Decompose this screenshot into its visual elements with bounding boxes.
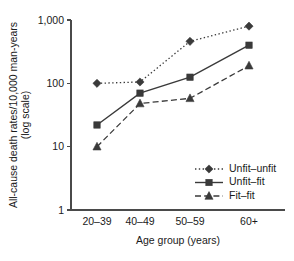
y-axis-ticks: 1101001,000: [38, 14, 71, 216]
x-tick-label: 20–39: [82, 215, 111, 227]
y-tick-label: 1,000: [38, 14, 64, 26]
x-axis-title: Age group (years): [136, 234, 220, 246]
y-axis-title-line2: (log scale): [19, 91, 31, 139]
marker-square: [246, 42, 252, 48]
y-axis-title-line1: All-cause death rates/10,000 man-years: [7, 22, 19, 208]
marker-diamond: [245, 22, 253, 30]
marker-diamond: [93, 79, 101, 87]
marker-triangle: [245, 61, 253, 69]
series-line: [97, 26, 249, 83]
legend-item-1: Unfit–unfit: [195, 162, 276, 174]
series-line: [97, 66, 249, 147]
series-3: [93, 61, 253, 150]
marker-triangle: [186, 94, 194, 102]
legend-label: Fit–fit: [229, 189, 255, 201]
legend-item-2: Unfit–fit: [195, 175, 265, 187]
chart-figure: 1101001,00020–3940–4950–5960+Age group (…: [0, 0, 294, 261]
x-tick-label: 40–49: [125, 215, 154, 227]
x-axis-ticks: 20–3940–4950–5960+: [82, 215, 258, 227]
y-tick-label: 10: [52, 140, 64, 152]
legend: Unfit–unfitUnfit–fitFit–fit: [195, 162, 276, 201]
marker-square: [94, 122, 100, 128]
series-line: [97, 45, 249, 125]
axis-titles: Age group (years)All-cause death rates/1…: [7, 22, 221, 246]
legend-label: Unfit–fit: [229, 175, 265, 187]
marker-square: [187, 74, 193, 80]
x-tick-label: 60+: [240, 215, 258, 227]
marker-square: [137, 90, 143, 96]
series-1: [93, 22, 253, 87]
marker-square: [206, 179, 212, 185]
marker-diamond: [205, 165, 213, 173]
x-tick-label: 50–59: [175, 215, 204, 227]
legend-label: Unfit–unfit: [229, 162, 276, 174]
series-2: [94, 42, 252, 128]
y-tick-label: 100: [46, 77, 64, 89]
marker-diamond: [136, 78, 144, 86]
legend-item-3: Fit–fit: [195, 189, 255, 201]
y-tick-label: 1: [58, 204, 64, 216]
marker-triangle: [136, 99, 144, 107]
line-chart: 1101001,00020–3940–4950–5960+Age group (…: [0, 0, 294, 261]
